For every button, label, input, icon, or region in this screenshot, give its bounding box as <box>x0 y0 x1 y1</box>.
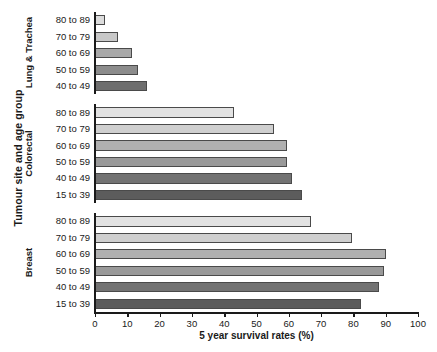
bar <box>95 216 311 226</box>
category-label: 60 to 69 <box>36 249 90 259</box>
x-tick-label: 10 <box>112 318 142 329</box>
x-tick <box>257 312 258 317</box>
chart-figure: Tumour site and age group Lung & Trachea… <box>0 0 437 352</box>
x-tick <box>127 312 128 317</box>
x-tick <box>192 312 193 317</box>
bar <box>95 249 386 259</box>
bar <box>95 124 274 134</box>
category-label: 15 to 39 <box>36 299 90 309</box>
bar <box>95 233 352 243</box>
group-label: Lung & Trachea <box>23 0 34 108</box>
category-label: 60 to 69 <box>36 141 90 151</box>
bar <box>95 81 147 91</box>
bar <box>95 65 138 75</box>
category-label: 70 to 79 <box>36 32 90 42</box>
group-label: Colorectal <box>23 98 34 208</box>
bar <box>95 282 379 292</box>
x-tick <box>224 312 225 317</box>
category-label: 60 to 69 <box>36 48 90 58</box>
bar <box>95 266 384 276</box>
bar <box>95 190 302 200</box>
x-tick <box>353 312 354 317</box>
y-axis-segment <box>94 104 96 203</box>
x-tick <box>160 312 161 317</box>
x-tick-label: 0 <box>80 318 110 329</box>
bar <box>95 107 234 117</box>
x-tick-label: 70 <box>306 318 336 329</box>
x-tick <box>95 312 96 317</box>
x-tick-label: 100 <box>403 318 433 329</box>
category-label: 40 to 49 <box>36 173 90 183</box>
category-label: 70 to 79 <box>36 233 90 243</box>
x-tick <box>289 312 290 317</box>
bar <box>95 157 287 167</box>
category-label: 70 to 79 <box>36 124 90 134</box>
x-tick-label: 60 <box>274 318 304 329</box>
x-tick-label: 40 <box>209 318 239 329</box>
x-tick-label: 20 <box>145 318 175 329</box>
bar <box>95 299 361 309</box>
category-label: 80 to 89 <box>36 15 90 25</box>
group-label: Breast <box>23 207 34 317</box>
x-tick <box>386 312 387 317</box>
x-tick-label: 50 <box>242 318 272 329</box>
x-tick-label: 80 <box>338 318 368 329</box>
category-label: 50 to 59 <box>36 157 90 167</box>
category-label: 80 to 89 <box>36 216 90 226</box>
x-tick <box>418 312 419 317</box>
x-tick-label: 90 <box>371 318 401 329</box>
category-label: 40 to 49 <box>36 81 90 91</box>
bar <box>95 173 292 183</box>
x-tick <box>321 312 322 317</box>
category-label: 15 to 39 <box>36 190 90 200</box>
category-label: 50 to 59 <box>36 65 90 75</box>
bar <box>95 48 132 58</box>
y-axis-segment <box>94 213 96 312</box>
x-axis-title: 5 year survival rates (%) <box>95 330 418 341</box>
category-label: 40 to 49 <box>36 282 90 292</box>
bar <box>95 140 287 150</box>
category-label: 50 to 59 <box>36 266 90 276</box>
x-tick-label: 30 <box>177 318 207 329</box>
y-axis-segment <box>94 12 96 94</box>
plot-area: 0102030405060708090100 <box>95 12 418 312</box>
bar <box>95 32 118 42</box>
bar <box>95 15 105 25</box>
category-label: 80 to 89 <box>36 108 90 118</box>
category-label-column: 80 to 8970 to 7960 to 6950 to 5940 to 49… <box>34 0 90 312</box>
